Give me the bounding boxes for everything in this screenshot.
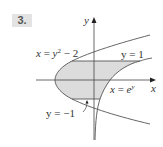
y-axis-arrow-icon bbox=[92, 17, 97, 23]
parabola-label: x = y2 − 2 bbox=[36, 47, 78, 59]
x-axis-label: x bbox=[151, 82, 156, 94]
y-axis-label: y bbox=[84, 14, 89, 26]
exp-curve-label: x = ey bbox=[110, 83, 135, 95]
y-equals-minus-1-label: y = −1 bbox=[46, 107, 75, 119]
y-equals-1-label: y = 1 bbox=[121, 48, 144, 60]
pointer-arrowhead-icon bbox=[86, 100, 89, 104]
region-graph bbox=[0, 0, 163, 147]
